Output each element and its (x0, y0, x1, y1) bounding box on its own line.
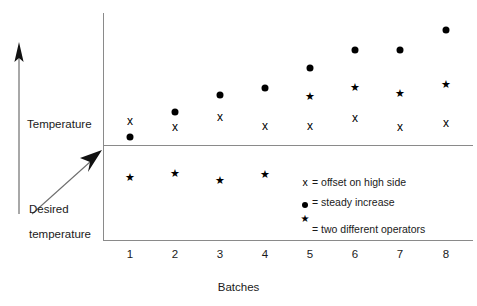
legend-item-star: ★= two different operators (299, 212, 474, 232)
marker-star-batch-3: ★ (215, 175, 225, 186)
legend-item-label: = steady increase (312, 196, 395, 208)
marker-dot-batch-3 (217, 92, 224, 99)
x-tick-label-8: 8 (436, 249, 456, 261)
y-axis-lower-label-line2: temperature (29, 229, 91, 241)
x-axis-title: Batches (0, 282, 477, 294)
x-tick-label-4: 4 (255, 249, 275, 261)
marker-x-batch-6: x (352, 112, 358, 124)
y-axis-lower-label-line1: Desired (29, 204, 69, 216)
legend-item-dot: = steady increase (299, 192, 474, 212)
marker-star-batch-5: ★ (305, 91, 315, 102)
x-tick-label-5: 5 (300, 249, 320, 261)
marker-star-batch-2: ★ (170, 168, 180, 179)
temperature-reference-line (103, 145, 473, 146)
legend-item-label: = offset on high side (312, 176, 406, 188)
x-tick-label-3: 3 (210, 249, 230, 261)
marker-x-batch-8: x (443, 117, 449, 129)
marker-x-batch-7: x (397, 121, 403, 133)
marker-x-batch-2: x (172, 121, 178, 133)
x-tick-label-2: 2 (165, 249, 185, 261)
chart-root: Temperature Desired temperature Batches … (0, 0, 477, 306)
marker-dot-batch-6 (352, 47, 359, 54)
marker-dot-batch-5 (307, 65, 314, 72)
marker-dot-batch-2 (172, 109, 179, 116)
marker-x-batch-3: x (217, 111, 223, 123)
marker-star-batch-6: ★ (350, 82, 360, 93)
marker-dot-batch-7 (397, 47, 404, 54)
chart-legend: x= offset on high side= steady increase★… (299, 172, 474, 232)
x-tick-label-6: 6 (345, 249, 365, 261)
legend-item-label: = two different operators (312, 223, 425, 235)
marker-dot-batch-8 (443, 27, 450, 34)
marker-x-batch-1: x (127, 115, 133, 127)
legend-item-x: x= offset on high side (299, 172, 474, 192)
x-axis-line (103, 240, 473, 241)
marker-star-batch-4: ★ (260, 169, 270, 180)
legend-x-icon: x (299, 176, 311, 188)
marker-star-batch-7: ★ (395, 88, 405, 99)
x-tick-label-7: 7 (390, 249, 410, 261)
marker-x-batch-4: x (262, 120, 268, 132)
legend-star-icon: ★ (299, 213, 311, 224)
marker-dot-batch-1 (127, 134, 134, 141)
marker-dot-batch-4 (262, 85, 269, 92)
marker-x-batch-5: x (307, 120, 313, 132)
x-tick-label-1: 1 (120, 249, 140, 261)
y-axis-upper-label: Temperature (27, 119, 92, 131)
marker-star-batch-1: ★ (125, 172, 135, 183)
marker-star-batch-8: ★ (441, 79, 451, 90)
legend-dot-icon (299, 198, 311, 210)
temperature-direction-arrow-icon (11, 42, 27, 214)
